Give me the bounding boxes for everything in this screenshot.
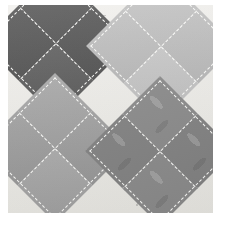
quilt-block-photograph [8, 5, 213, 213]
caption [12, 215, 217, 226]
quilt-photo-page [0, 0, 227, 226]
